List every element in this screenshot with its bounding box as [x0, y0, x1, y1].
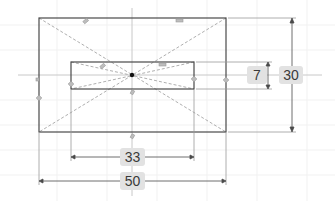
dimension-label-outer-width[interactable]: 50: [120, 172, 145, 190]
parallel-constraint-icon: [100, 63, 106, 69]
origin-point-icon[interactable]: [130, 73, 134, 77]
horizontal-constraint-icon: [159, 63, 166, 66]
dimension-label-inner-height[interactable]: 7: [247, 66, 267, 84]
parallel-constraint-icon: [130, 90, 135, 95]
parallel-constraint-icon: [83, 18, 89, 24]
midpoint-constraint-icon: [36, 78, 39, 81]
midpoint-constraint-icon: [223, 77, 229, 83]
grid: [0, 0, 335, 201]
dimension-label-inner-width[interactable]: 33: [120, 148, 145, 166]
parallel-constraint-icon: [130, 134, 135, 139]
midpoint-constraint-icon: [191, 76, 197, 82]
sketch-canvas[interactable]: [0, 0, 335, 201]
dimension-label-outer-height[interactable]: 30: [279, 66, 303, 84]
horizontal-constraint-icon: [176, 19, 183, 22]
midpoint-constraint-icon: [68, 81, 74, 87]
